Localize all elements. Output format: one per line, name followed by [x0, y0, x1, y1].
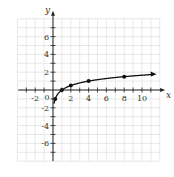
x-tick-label: 4: [86, 94, 91, 103]
y-tick-label: 2: [44, 68, 49, 77]
y-tick-label: -6: [41, 139, 49, 148]
y-tick-label: 6: [44, 33, 49, 42]
x-axis-arrow: [160, 88, 165, 92]
x-tick-label: 8: [122, 94, 127, 103]
data-point: [69, 84, 73, 88]
tick-labels: xy-2246810-6-4-22460: [31, 5, 171, 148]
data-point: [53, 97, 57, 101]
x-tick-label: -2: [31, 94, 39, 103]
y-axis-label: y: [44, 5, 51, 15]
y-tick-label: 4: [44, 50, 49, 59]
x-axis-label: x: [166, 90, 171, 100]
data-point: [122, 75, 126, 79]
y-tick-label: -4: [41, 122, 49, 131]
chart-svg: xy-2246810-6-4-22460: [0, 0, 174, 177]
x-tick-label: 10: [137, 94, 147, 103]
data-point: [87, 79, 91, 83]
x-tick-label: 6: [104, 94, 109, 103]
data-point: [60, 88, 64, 92]
x-tick-label: 2: [68, 94, 73, 103]
y-axis-arrow: [51, 11, 55, 16]
origin-label: 0: [44, 93, 49, 102]
y-tick-label: -2: [41, 104, 49, 113]
